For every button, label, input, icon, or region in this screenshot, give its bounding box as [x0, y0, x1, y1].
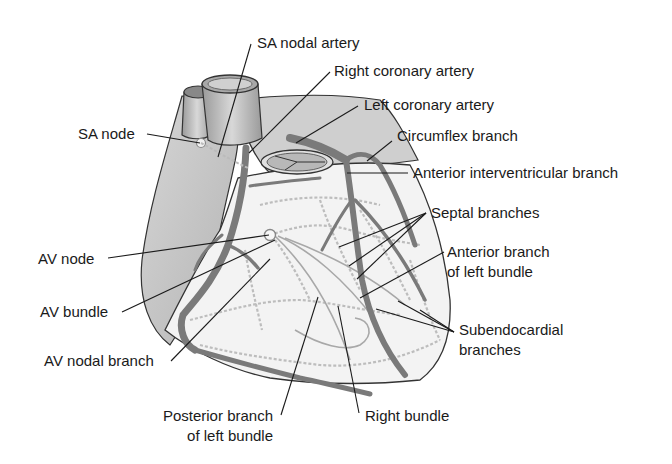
label-septal-branches: Septal branches [431, 203, 539, 223]
label-anterior-branch-left-bundle: Anterior branch of left bundle [447, 242, 550, 282]
label-line-1: Posterior branch [150, 406, 273, 426]
label-posterior-branch-left-bundle: Posterior branch of left bundle [150, 406, 273, 446]
label-line-2: of left bundle [150, 426, 273, 446]
label-av-bundle: AV bundle [40, 302, 108, 322]
label-line-1: Anterior branch [447, 242, 550, 262]
label-av-nodal-branch: AV nodal branch [44, 351, 154, 371]
label-subendocardial-branches: Subendocardial branches [459, 320, 563, 360]
label-right-coronary-artery: Right coronary artery [334, 61, 474, 81]
label-sa-node: SA node [78, 124, 135, 144]
label-anterior-interventricular-branch: Anterior interventricular branch [413, 163, 618, 183]
label-right-bundle: Right bundle [365, 406, 449, 426]
label-line-2: of left bundle [447, 262, 550, 282]
label-line-1: Subendocardial [459, 320, 563, 340]
label-left-coronary-artery: Left coronary artery [364, 95, 494, 115]
label-line-2: branches [459, 340, 563, 360]
pulmonary-valve [261, 150, 333, 174]
label-sa-nodal-artery: SA nodal artery [257, 33, 360, 53]
label-av-node: AV node [38, 249, 94, 269]
label-circumflex-branch: Circumflex branch [397, 126, 518, 146]
